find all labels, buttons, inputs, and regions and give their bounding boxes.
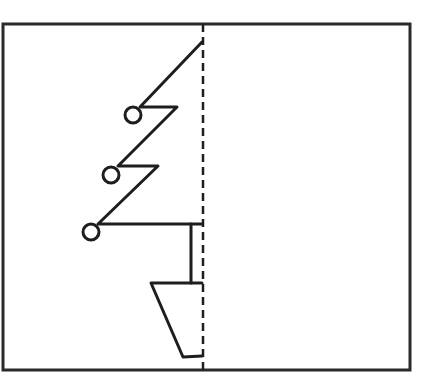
ornament-circle-1 (125, 107, 141, 123)
ornament-circle-3 (83, 224, 99, 240)
tree-pot-half (151, 283, 202, 357)
tree-half-outline (98, 42, 202, 224)
ornament-circle-2 (103, 167, 119, 183)
drawing-frame (3, 24, 410, 370)
symmetry-drawing-canvas (0, 0, 427, 384)
ornaments-group (83, 107, 141, 240)
